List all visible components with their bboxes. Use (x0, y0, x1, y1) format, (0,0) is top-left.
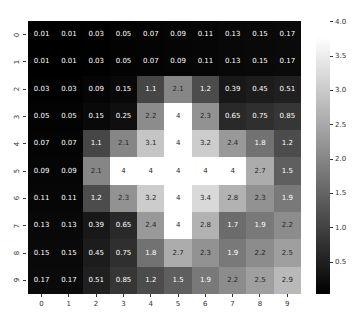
heatmap-cell: 0.75 (110, 239, 137, 266)
heatmap-cell: 2.9 (274, 267, 301, 294)
heatmap-cell: 4 (164, 130, 191, 157)
x-tick-label: 1 (55, 294, 82, 308)
heatmap-cell: 0.01 (55, 48, 82, 75)
heatmap-cell: 2.7 (246, 157, 273, 184)
heatmap-cell: 4 (192, 157, 219, 184)
x-tick-label: 2 (83, 294, 110, 308)
heatmap-cell: 2.2 (219, 267, 246, 294)
heatmap-cell: 0.05 (28, 103, 55, 130)
colorbar-tick-label: 3.5 (330, 52, 346, 60)
y-tick-label: 9 (8, 267, 26, 294)
heatmap-cell: 1.2 (83, 185, 110, 212)
heatmap-cell: 2.3 (192, 239, 219, 266)
colorbar-tick-label: 2.5 (330, 121, 346, 129)
y-tick-label: 6 (8, 185, 26, 212)
heatmap-cell: 1.1 (83, 130, 110, 157)
colorbar-tick-label: 2.0 (330, 155, 346, 163)
heatmap-cell: 0.07 (137, 21, 164, 48)
heatmap-cell: 4 (137, 157, 164, 184)
heatmap-cell: 0.09 (83, 76, 110, 103)
heatmap-cell: 2.3 (192, 103, 219, 130)
heatmap-cell: 0.09 (164, 48, 191, 75)
x-tick-label: 9 (274, 294, 301, 308)
heatmap-cell: 2.8 (192, 212, 219, 239)
heatmap-cell: 0.25 (110, 103, 137, 130)
x-tick-label: 3 (110, 294, 137, 308)
heatmap-cell: 0.65 (110, 212, 137, 239)
y-tick-label: 7 (8, 212, 26, 239)
heatmap-cell: 0.01 (55, 21, 82, 48)
heatmap-cell: 0.15 (246, 21, 273, 48)
y-tick-label: 4 (8, 130, 26, 157)
x-tick-label: 6 (192, 294, 219, 308)
heatmap-cell: 4 (110, 157, 137, 184)
heatmap-cell: 2.3 (110, 185, 137, 212)
heatmap-cell: 4 (164, 103, 191, 130)
colorbar-tick-label: 3.0 (330, 86, 346, 94)
heatmap-cell: 1.9 (192, 267, 219, 294)
heatmap-cell: 2.3 (246, 185, 273, 212)
heatmap-grid: 0.010.010.030.050.070.090.110.130.150.17… (28, 21, 301, 294)
heatmap-cell: 0.15 (28, 239, 55, 266)
heatmap-cell: 4 (164, 185, 191, 212)
heatmap-cell: 0.09 (55, 157, 82, 184)
y-tick-label: 1 (8, 48, 26, 75)
heatmap-cell: 0.85 (274, 103, 301, 130)
heatmap-cell: 0.17 (28, 267, 55, 294)
x-tick-label: 4 (137, 294, 164, 308)
heatmap-cell: 3.4 (192, 185, 219, 212)
heatmap-cell: 0.09 (28, 157, 55, 184)
heatmap-cell: 0.05 (110, 48, 137, 75)
heatmap-cell: 4 (219, 157, 246, 184)
colorbar-tick-label: 4.0 (330, 18, 346, 26)
heatmap-cell: 2.7 (164, 239, 191, 266)
heatmap-cell: 0.13 (219, 48, 246, 75)
heatmap-cell: 3.1 (137, 130, 164, 157)
y-tick-label: 3 (8, 103, 26, 130)
heatmap-cell: 0.15 (246, 48, 273, 75)
heatmap-cell: 0.51 (83, 267, 110, 294)
heatmap-cell: 2.2 (274, 212, 301, 239)
y-tick-label: 5 (8, 158, 26, 185)
heatmap-cell: 3.2 (192, 130, 219, 157)
colorbar (316, 37, 330, 294)
heatmap-cell: 0.11 (28, 185, 55, 212)
heatmap-cell: 0.09 (164, 21, 191, 48)
heatmap-cell: 2.1 (164, 76, 191, 103)
heatmap-cell: 0.03 (28, 76, 55, 103)
heatmap-cell: 2.8 (219, 185, 246, 212)
heatmap-cell: 2.2 (137, 103, 164, 130)
heatmap-cell: 0.13 (219, 21, 246, 48)
heatmap-cell: 0.07 (28, 130, 55, 157)
heatmap-cell: 2.1 (110, 130, 137, 157)
heatmap-cell: 0.85 (110, 267, 137, 294)
heatmap-cell: 0.05 (55, 103, 82, 130)
heatmap-cell: 4 (164, 157, 191, 184)
heatmap-cell: 4 (164, 212, 191, 239)
heatmap-cell: 0.51 (274, 76, 301, 103)
heatmap-cell: 0.01 (28, 21, 55, 48)
heatmap-cell: 0.39 (219, 76, 246, 103)
heatmap-cell: 3.2 (137, 185, 164, 212)
y-tick-label: 2 (8, 76, 26, 103)
heatmap-cell: 1.1 (137, 76, 164, 103)
x-tick-label: 5 (165, 294, 192, 308)
heatmap-cell: 0.17 (274, 48, 301, 75)
colorbar-tick-label: 0.5 (330, 258, 346, 266)
heatmap-cell: 1.2 (274, 130, 301, 157)
heatmap-cell: 1.8 (246, 130, 273, 157)
heatmap-cell: 2.1 (83, 157, 110, 184)
heatmap-cell: 0.01 (28, 48, 55, 75)
heatmap-cell: 0.07 (137, 48, 164, 75)
heatmap-figure: 0.010.010.030.050.070.090.110.130.150.17… (0, 0, 362, 321)
heatmap-cell: 0.11 (192, 21, 219, 48)
heatmap-cell: 0.39 (83, 212, 110, 239)
heatmap-cell: 0.07 (55, 130, 82, 157)
heatmap-cell: 0.03 (83, 48, 110, 75)
heatmap-cell: 2.5 (246, 267, 273, 294)
heatmap-cell: 0.05 (110, 21, 137, 48)
heatmap-cell: 0.13 (28, 212, 55, 239)
heatmap-cell: 0.45 (83, 239, 110, 266)
colorbar-tick-label: 1.0 (330, 224, 346, 232)
heatmap-cell: 0.65 (219, 103, 246, 130)
